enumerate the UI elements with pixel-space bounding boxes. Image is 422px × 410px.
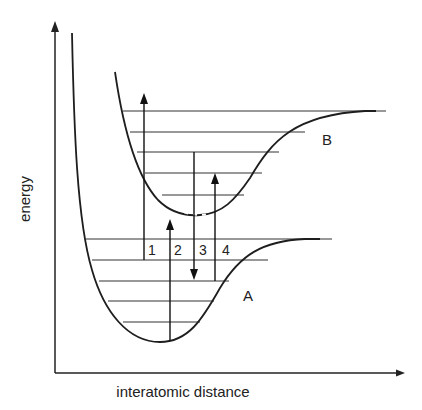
arrow-down-icon	[190, 269, 198, 280]
y-axis-arrow-icon	[51, 21, 59, 32]
transition-1	[140, 93, 148, 260]
transition-2	[166, 219, 174, 341]
curve-label-b: B	[322, 131, 332, 148]
curve-a-levels	[86, 239, 332, 322]
transition-label-1: 1	[148, 242, 156, 258]
arrow-up-icon	[140, 93, 148, 104]
transition-label-3: 3	[199, 242, 207, 258]
curve-b-levels	[123, 111, 386, 195]
y-axis-label: energy	[16, 176, 33, 222]
axes	[51, 21, 405, 377]
curve-label-a: A	[243, 287, 253, 304]
transition-label-2: 2	[174, 242, 182, 258]
arrow-up-icon	[211, 173, 219, 184]
curve-a	[72, 33, 320, 342]
x-axis-arrow-icon	[396, 370, 405, 377]
transition-label-4: 4	[222, 242, 230, 258]
arrow-up-icon	[166, 219, 174, 230]
curve-b	[115, 72, 376, 215]
transition-4	[211, 173, 219, 281]
energy-diagram: energy interatomic distance 1 2	[0, 0, 422, 410]
x-axis-label: interatomic distance	[116, 383, 249, 400]
